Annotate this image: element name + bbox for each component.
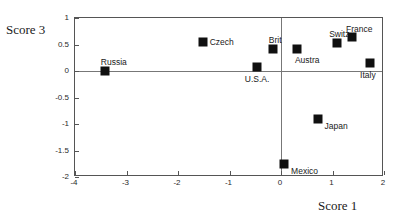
y-tick-mark [75,71,79,72]
data-point-label: Mexico [291,166,318,176]
plot-area: RussiaCzechBritU.S.A.AustraSwitzFranceIt… [74,17,383,176]
data-point-marker [292,45,301,54]
y-axis-title: Score 3 [6,22,45,38]
data-point-marker [366,59,375,68]
data-point-label: Brit [269,35,282,45]
x-tick-mark [230,171,231,175]
x-tick-mark [281,171,282,175]
data-point-label: Czech [210,37,234,47]
x-tick-label: 2 [381,178,385,187]
y-tick-label: -1.5 [55,145,69,154]
x-tick-mark [178,171,179,175]
x-tick-label: 0 [278,178,282,187]
x-tick-label: -1 [225,178,232,187]
y-tick-mark [75,98,79,99]
data-point-marker [268,44,277,53]
scatter-plot-figure: Score 3 Score 1 RussiaCzechBritU.S.A.Aus… [0,0,400,222]
data-point-label: Italy [360,70,376,80]
x-tick-mark [75,171,76,175]
y-tick-mark [75,45,79,46]
data-point-marker [280,160,289,169]
data-point-label: Austra [295,55,320,65]
x-tick-mark [333,171,334,175]
x-tick-label: -3 [122,178,129,187]
data-point-marker [252,63,261,72]
y-tick-mark [75,124,79,125]
y-tick-label: 0.5 [58,39,69,48]
data-point-marker [198,37,207,46]
data-point-label: France [346,24,372,34]
x-tick-label: -4 [70,178,77,187]
y-tick-mark [75,151,79,152]
y-tick-label: -1 [62,119,69,128]
y-tick-mark [75,18,79,19]
x-tick-label: 1 [329,178,333,187]
data-point-marker [313,115,322,124]
reference-line-y-zero [75,71,382,72]
data-point-marker [333,38,342,47]
y-tick-label: -0.5 [55,92,69,101]
data-point-label: U.S.A. [245,74,270,84]
data-point-marker [100,67,109,76]
data-point-label: Russia [101,57,127,67]
y-tick-label: -2 [62,172,69,181]
y-tick-label: 0 [65,66,69,75]
x-axis-title: Score 1 [318,198,357,214]
y-tick-label: 1 [65,13,69,22]
data-point-label: Japan [325,121,348,131]
x-tick-mark [384,171,385,175]
x-tick-mark [127,171,128,175]
x-tick-label: -2 [173,178,180,187]
